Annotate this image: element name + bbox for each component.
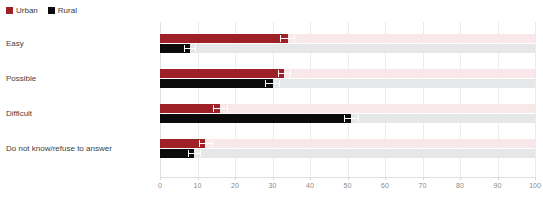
- bar-row: [160, 139, 535, 161]
- x-tick-50: [348, 177, 349, 180]
- x-tick-label-80: 80: [456, 182, 464, 189]
- bar-urban[interactable]: [160, 69, 284, 78]
- x-tick-30: [273, 177, 274, 180]
- bar-row: [160, 69, 535, 91]
- error-bar-rural: [184, 44, 195, 53]
- bar-row: [160, 104, 535, 126]
- x-tick-40: [310, 177, 311, 180]
- x-tick-20: [235, 177, 236, 180]
- error-bar-rural: [188, 149, 201, 158]
- error-bar-rural: [344, 114, 359, 123]
- x-tick-label-10: 10: [194, 182, 202, 189]
- x-tick-10: [198, 177, 199, 180]
- x-axis: 0102030405060708090100: [160, 177, 535, 197]
- legend-label-rural: Rural: [58, 6, 77, 15]
- bar-row: [160, 34, 535, 56]
- legend-swatch-rural-icon: [48, 7, 55, 14]
- x-tick-100: [535, 177, 536, 180]
- x-tick-90: [498, 177, 499, 180]
- bar-urban[interactable]: [160, 139, 205, 148]
- legend-swatch-urban-icon: [6, 7, 13, 14]
- x-tick-label-70: 70: [419, 182, 427, 189]
- category-label-easy: Easy: [6, 39, 24, 49]
- error-bar-urban: [280, 34, 295, 43]
- legend-label-urban: Urban: [16, 6, 38, 15]
- x-tick-label-30: 30: [269, 182, 277, 189]
- error-bar-urban: [213, 104, 228, 113]
- category-label-dontknow: Do not know/refuse to answer: [6, 144, 112, 154]
- bar-rows: [160, 22, 535, 177]
- bar-chart: Urban Rural Easy Possible Difficult Do n…: [0, 0, 543, 202]
- bar-urban[interactable]: [160, 104, 220, 113]
- x-tick-label-100: 100: [529, 182, 541, 189]
- x-tick-label-40: 40: [306, 182, 314, 189]
- x-tick-80: [460, 177, 461, 180]
- x-tick-60: [385, 177, 386, 180]
- x-tick-label-90: 90: [494, 182, 502, 189]
- x-tick-label-60: 60: [381, 182, 389, 189]
- category-axis: Easy Possible Difficult Do not know/refu…: [6, 22, 158, 177]
- legend-item-rural[interactable]: Rural: [48, 6, 77, 15]
- x-tick-70: [423, 177, 424, 180]
- category-label-possible: Possible: [6, 74, 36, 84]
- error-bar-urban: [199, 139, 212, 148]
- bar-rural[interactable]: [160, 114, 351, 123]
- error-bar-urban: [278, 69, 291, 78]
- x-tick-label-0: 0: [158, 182, 162, 189]
- x-tick-0: [160, 177, 161, 180]
- gridline-100: [535, 22, 536, 177]
- category-label-difficult: Difficult: [6, 109, 32, 119]
- bar-track-rural: [160, 149, 535, 158]
- plot-area: [160, 22, 535, 177]
- bar-track-urban: [160, 139, 535, 148]
- x-tick-label-20: 20: [231, 182, 239, 189]
- chart-legend: Urban Rural: [6, 6, 77, 15]
- legend-item-urban[interactable]: Urban: [6, 6, 38, 15]
- bar-urban[interactable]: [160, 34, 288, 43]
- error-bar-rural: [265, 79, 280, 88]
- bar-rural[interactable]: [160, 79, 273, 88]
- x-tick-label-50: 50: [344, 182, 352, 189]
- bar-track-rural: [160, 44, 535, 53]
